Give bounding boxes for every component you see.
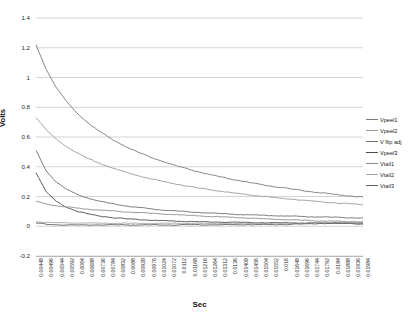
series-line-vpeel1	[36, 45, 363, 197]
legend-item[interactable]: Vtail1	[366, 158, 420, 169]
chart-legend: Vpeel1Vpeel2V flip adjVpeel3Vtail1Vtail2…	[366, 114, 420, 191]
legend-item[interactable]: Vpeel3	[366, 147, 420, 158]
legend-item[interactable]: Vtail2	[366, 169, 420, 180]
x-tick-label: 0.01696	[305, 258, 310, 277]
x-tick-label: 0.016	[284, 258, 289, 271]
y-tick-label: 0.6	[21, 134, 30, 140]
legend-swatch-icon	[366, 163, 378, 164]
legend-label: Vpeel2	[380, 128, 397, 134]
x-tick-label: 0.01792	[325, 258, 330, 277]
legend-label: V flip adj	[380, 139, 401, 145]
y-tick-label: 1	[27, 74, 30, 80]
y-tick-label: 0.2	[21, 193, 30, 199]
x-tick-label: 0.0136	[233, 258, 238, 274]
legend-item[interactable]: Vpeel2	[366, 125, 420, 136]
x-tick-label: 0.01984	[366, 258, 371, 277]
x-tick-label: 0.00688	[90, 258, 95, 277]
volts-vs-sec-chart: Volts 1.41.210.80.60.40.20-0.2 0.004480.…	[0, 0, 420, 320]
y-axis-tick-labels: 1.41.210.80.60.40.20-0.2	[0, 18, 33, 256]
x-tick-label: 0.01456	[254, 258, 259, 277]
x-tick-label: 0.00544	[60, 258, 65, 277]
y-tick-label: 0.4	[21, 164, 30, 170]
legend-item[interactable]: Vpeel1	[366, 114, 420, 125]
legend-item[interactable]: Vtail3	[366, 180, 420, 191]
x-tick-label: 0.01888	[346, 258, 351, 277]
legend-swatch-icon	[366, 152, 378, 153]
legend-label: Vtail3	[380, 183, 394, 189]
legend-label: Vpeel3	[380, 150, 397, 156]
series-line-vtail1	[36, 201, 363, 222]
x-tick-label: 0.0064	[80, 258, 85, 274]
x-tick-label: 0.00736	[101, 258, 106, 277]
legend-label: Vtail2	[380, 172, 394, 178]
legend-swatch-icon	[366, 119, 378, 120]
x-tick-label: 0.01552	[274, 258, 279, 277]
x-tick-label: 0.0088	[131, 258, 136, 274]
x-tick-label: 0.0184	[336, 258, 341, 274]
x-tick-label: 0.01648	[295, 258, 300, 277]
x-tick-label: 0.01744	[315, 258, 320, 277]
legend-item[interactable]: V flip adj	[366, 136, 420, 147]
x-tick-label: 0.01024	[162, 258, 167, 277]
legend-swatch-icon	[366, 130, 378, 131]
y-tick-label: 1.4	[21, 15, 30, 21]
x-axis-tick-labels: 0.004480.004960.005440.005920.00640.0068…	[36, 258, 363, 300]
y-tick-label: 0.8	[21, 104, 30, 110]
x-tick-label: 0.00928	[141, 258, 146, 277]
x-tick-label: 0.01168	[193, 258, 198, 276]
plot-area	[36, 18, 363, 256]
series-line-vpeel2	[36, 118, 363, 205]
x-tick-label: 0.00832	[121, 258, 126, 277]
x-tick-label: 0.01408	[244, 258, 249, 277]
x-tick-label: 0.00448	[39, 258, 44, 277]
y-tick-label: 0	[27, 223, 30, 229]
x-tick-label: 0.00976	[152, 258, 157, 277]
y-tick-label: -0.2	[19, 253, 30, 259]
x-tick-label: 0.01216	[203, 258, 208, 277]
legend-label: Vtail1	[380, 161, 394, 167]
x-tick-label: 0.00496	[49, 258, 54, 277]
legend-swatch-icon	[366, 185, 378, 186]
x-tick-label: 0.01504	[264, 258, 269, 277]
x-tick-label: 0.0112	[182, 258, 187, 273]
x-axis-title: Sec	[36, 300, 363, 309]
x-tick-label: 0.00592	[70, 258, 75, 277]
y-tick-label: 1.2	[21, 45, 30, 51]
legend-swatch-icon	[366, 141, 378, 142]
legend-label: Vpeel1	[380, 117, 397, 123]
series-lines	[36, 18, 363, 256]
legend-swatch-icon	[366, 174, 378, 175]
x-tick-label: 0.00784	[111, 258, 116, 277]
x-tick-label: 0.01264	[213, 258, 218, 277]
x-tick-label: 0.01072	[172, 258, 177, 277]
x-tick-label: 0.01312	[223, 258, 228, 277]
series-line-v-flip-adj	[36, 150, 363, 218]
x-tick-label: 0.01936	[356, 258, 361, 277]
